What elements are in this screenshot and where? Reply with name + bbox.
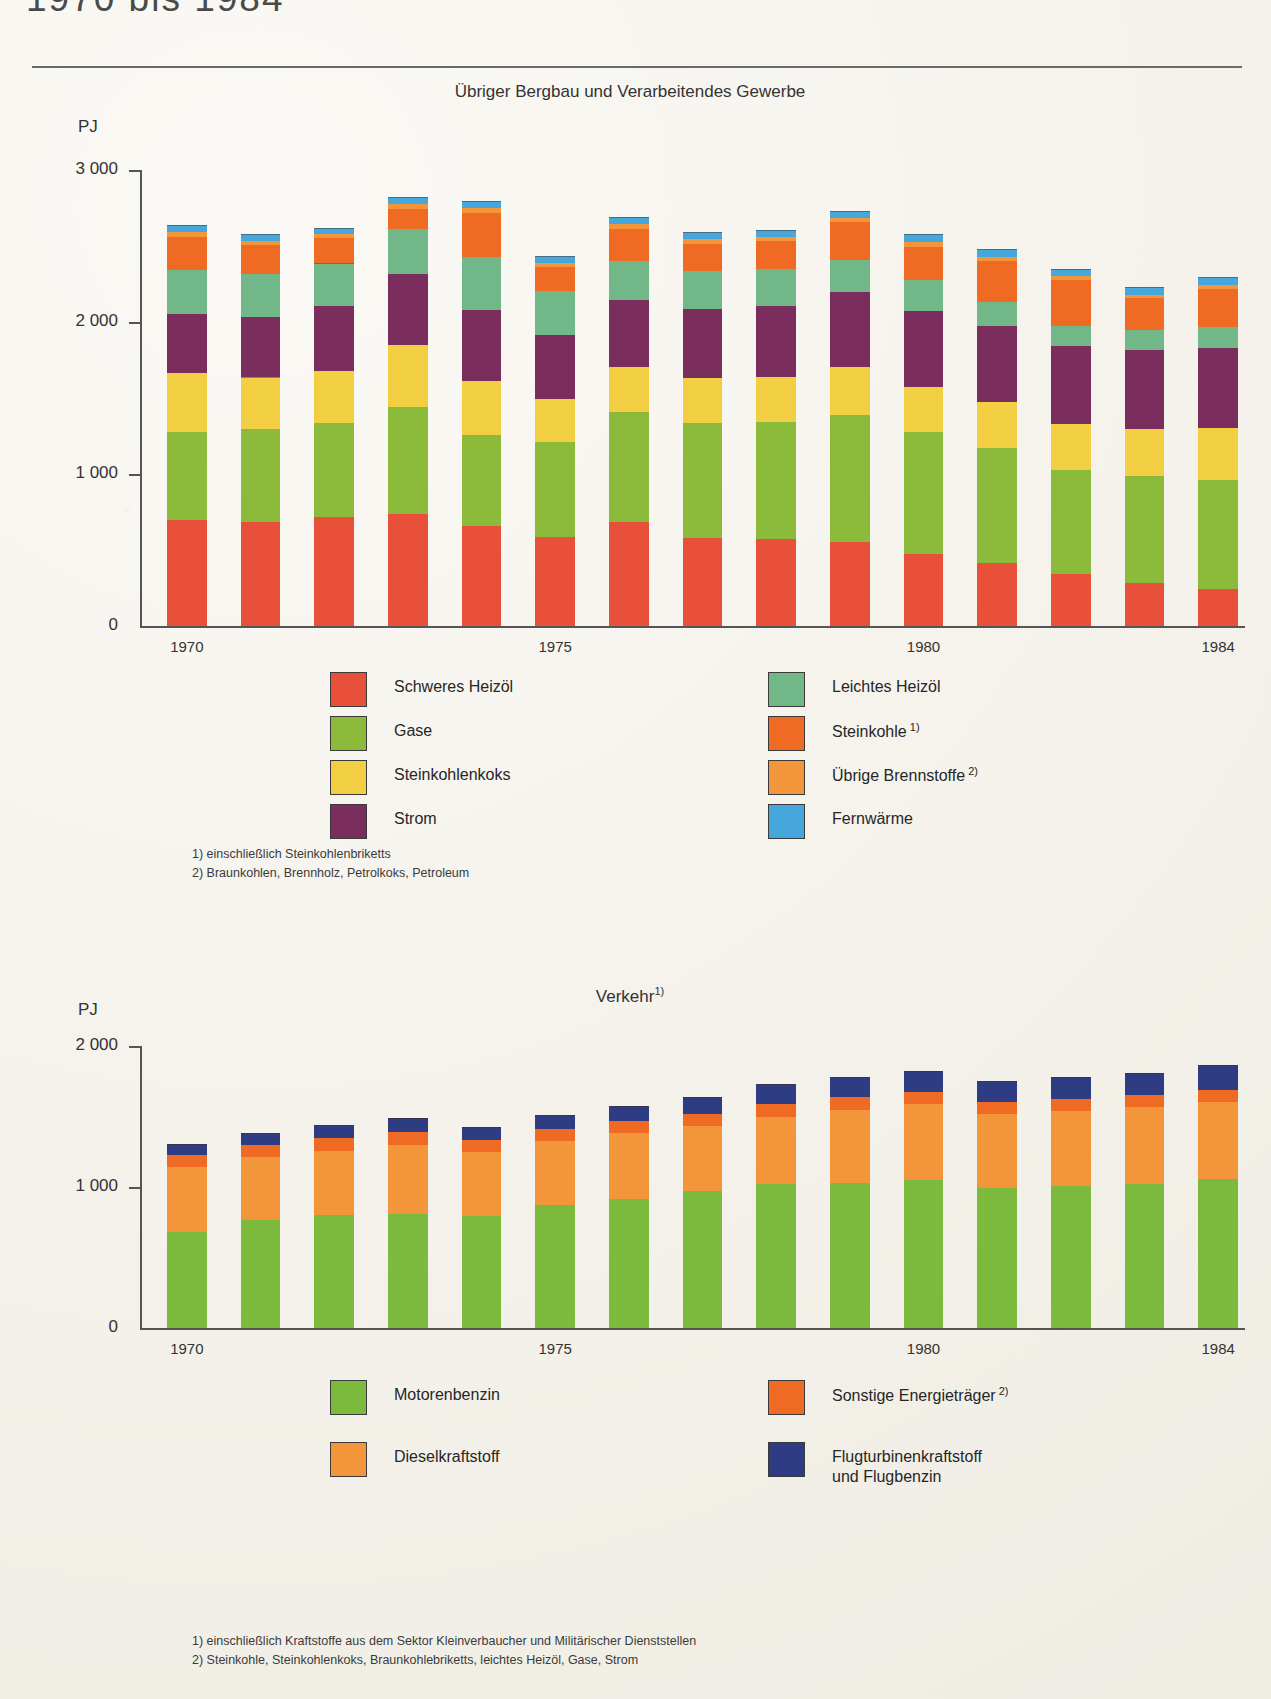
legend-swatch — [768, 1380, 805, 1415]
bar-segment — [977, 1101, 1017, 1114]
bar-segment — [1051, 1098, 1091, 1111]
bar-segment — [1125, 1106, 1165, 1184]
x-axis-tick-label: 1980 — [884, 1340, 964, 1357]
bar-1978 — [756, 1085, 796, 1328]
bar-segment — [314, 1137, 354, 1151]
bar-segment — [167, 1231, 207, 1328]
bar-segment — [167, 1166, 207, 1232]
bar-1980 — [904, 1072, 944, 1328]
bar-segment — [388, 1118, 428, 1132]
bar-segment — [683, 1190, 723, 1328]
y-axis-tick — [129, 1046, 140, 1048]
bar-segment — [1125, 1073, 1165, 1096]
legend-item[interactable]: Flugturbinenkraftstoffund Flugbenzin — [768, 1442, 982, 1487]
legend-swatch — [330, 1380, 367, 1415]
bar-segment — [241, 1133, 281, 1145]
bar-segment — [1198, 1178, 1238, 1328]
y-axis-tick-label: 2 000 — [75, 1035, 118, 1055]
bar-1973 — [388, 1119, 428, 1328]
bar-segment — [388, 1144, 428, 1214]
bar-segment — [462, 1139, 502, 1152]
bar-segment — [314, 1150, 354, 1215]
bar-segment — [1051, 1185, 1091, 1328]
bar-1982 — [1051, 1078, 1091, 1328]
legend-swatch — [330, 1442, 367, 1477]
bar-1976 — [609, 1107, 649, 1328]
bar-segment — [830, 1109, 870, 1183]
y-axis-tick-label: 0 — [109, 1317, 118, 1337]
bar-segment — [535, 1140, 575, 1204]
x-axis-tick-label: 1975 — [515, 1340, 595, 1357]
footnote: 1) einschließlich Kraftstoffe aus dem Se… — [192, 1632, 696, 1651]
legend-label: Motorenbenzin — [394, 1380, 500, 1405]
bar-segment — [609, 1106, 649, 1121]
y-axis-tick — [129, 1187, 140, 1189]
bar-segment — [535, 1128, 575, 1141]
bar-segment — [904, 1103, 944, 1180]
bar-1975 — [535, 1116, 575, 1328]
bar-segment — [1051, 1077, 1091, 1099]
legend-item[interactable]: Motorenbenzin — [330, 1380, 500, 1415]
bar-segment — [756, 1084, 796, 1104]
bar-segment — [1051, 1110, 1091, 1186]
bar-segment — [830, 1096, 870, 1110]
x-axis — [140, 1328, 1245, 1330]
bar-segment — [756, 1183, 796, 1328]
bar-segment — [904, 1179, 944, 1328]
bar-segment — [1125, 1094, 1165, 1107]
chart-title: Verkehr1) — [480, 985, 780, 1007]
x-axis-tick-label: 1970 — [147, 1340, 227, 1357]
page-root: 1970 bis 1984 Übriger Bergbau und Verarb… — [0, 0, 1271, 1699]
bar-segment — [683, 1113, 723, 1126]
bar-segment — [535, 1115, 575, 1129]
bar-1979 — [830, 1078, 870, 1328]
bar-segment — [462, 1127, 502, 1141]
legend-label: Flugturbinenkraftstoffund Flugbenzin — [832, 1442, 982, 1487]
bar-segment — [830, 1182, 870, 1328]
bar-segment — [241, 1219, 281, 1328]
bar-1984 — [1198, 1066, 1238, 1328]
chart-verkehr: Verkehr1) PJ 01 0002 0001970197519801984… — [0, 0, 1271, 1699]
bar-segment — [977, 1113, 1017, 1187]
bar-segment — [1198, 1089, 1238, 1102]
chart-footnotes: 1) einschließlich Kraftstoffe aus dem Se… — [192, 1632, 696, 1671]
bar-segment — [609, 1198, 649, 1328]
bar-segment — [1198, 1065, 1238, 1089]
bar-segment — [535, 1204, 575, 1328]
bar-segment — [609, 1132, 649, 1199]
y-axis-unit: PJ — [78, 1000, 98, 1020]
x-axis-tick-label: 1984 — [1178, 1340, 1258, 1357]
bar-segment — [241, 1156, 281, 1220]
legend-item[interactable]: Dieselkraftstoff — [330, 1442, 500, 1477]
bar-segment — [314, 1214, 354, 1328]
bar-segment — [904, 1091, 944, 1104]
bar-segment — [241, 1144, 281, 1157]
bar-segment — [1125, 1183, 1165, 1328]
bar-segment — [756, 1116, 796, 1185]
bar-segment — [683, 1125, 723, 1191]
bar-1981 — [977, 1082, 1017, 1328]
legend-label: Dieselkraftstoff — [394, 1442, 500, 1467]
bar-segment — [388, 1213, 428, 1328]
bar-segment — [1198, 1101, 1238, 1180]
y-axis-tick-label: 1 000 — [75, 1176, 118, 1196]
bar-segment — [388, 1131, 428, 1145]
bar-segment — [756, 1103, 796, 1117]
chart-legend: MotorenbenzinDieselkraftstoffSonstige En… — [330, 1380, 1230, 1500]
legend-item[interactable]: Sonstige Energieträger 2) — [768, 1380, 1009, 1415]
bar-1970 — [167, 1145, 207, 1328]
bar-segment — [462, 1215, 502, 1328]
bar-segment — [167, 1154, 207, 1168]
bar-segment — [462, 1151, 502, 1215]
bar-1974 — [462, 1128, 502, 1328]
bar-segment — [977, 1187, 1017, 1328]
legend-swatch — [768, 1442, 805, 1477]
bar-segment — [167, 1144, 207, 1154]
bar-segment — [314, 1125, 354, 1139]
bar-1971 — [241, 1134, 281, 1328]
bar-1983 — [1125, 1074, 1165, 1329]
legend-label: Sonstige Energieträger 2) — [832, 1380, 1009, 1406]
bar-segment — [977, 1081, 1017, 1102]
y-axis — [140, 1046, 142, 1328]
bar-segment — [904, 1071, 944, 1092]
